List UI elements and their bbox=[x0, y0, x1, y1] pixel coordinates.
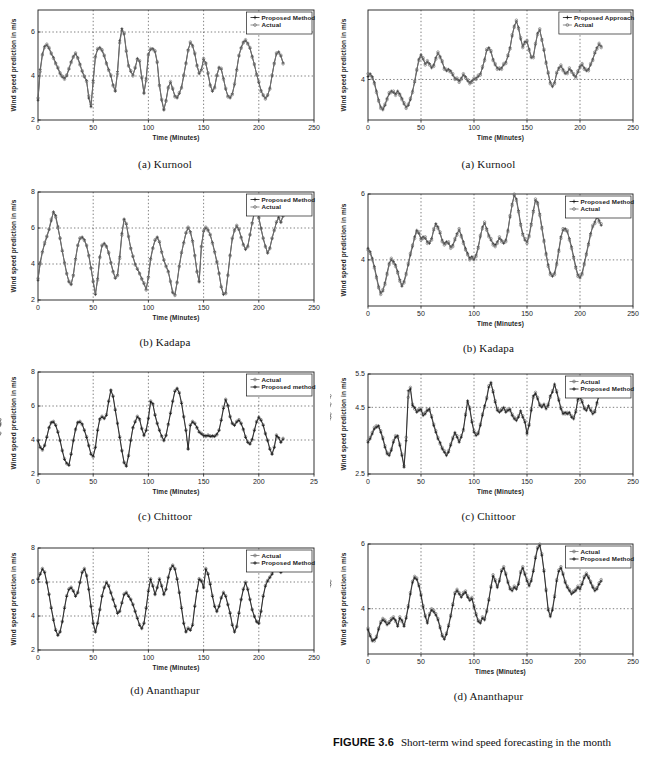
ytick-label: 4 bbox=[31, 612, 35, 619]
y-axis-title: Wind speed prediction in m/s bbox=[340, 18, 348, 111]
xtick-label: 100 bbox=[468, 310, 480, 317]
chart-block-right-c: 0501001502002502.54.55.5Time (Minutes)Wi… bbox=[330, 364, 647, 522]
x-axis-title: Time (Minutes) bbox=[477, 488, 524, 496]
xtick-label: 0 bbox=[36, 478, 40, 485]
plot-left-c-chittoor: 050100150200252468Time (Minutes)Wind spe… bbox=[0, 362, 330, 504]
legend-label: Proposed Method bbox=[262, 559, 316, 566]
subcaption-left-a: (a) Kurnool bbox=[0, 158, 330, 170]
xtick-label: 150 bbox=[198, 304, 210, 311]
subcaption-left-d: (d) Ananthapur bbox=[0, 684, 330, 696]
left-column: 050100150200250246Time (Minutes)Wind spe… bbox=[0, 0, 330, 700]
subcaption-right-d: (d) Ananthapur bbox=[330, 690, 647, 702]
xtick-label: 100 bbox=[143, 478, 155, 485]
y-axis-title: Wind speed prediction in m/s bbox=[10, 199, 18, 292]
xtick-label: 0 bbox=[366, 478, 370, 485]
legend-label: Actual bbox=[262, 203, 282, 210]
chart-block-left-a: 050100150200250246Time (Minutes)Wind spe… bbox=[0, 0, 330, 170]
legend-label: Proposed Method bbox=[262, 14, 316, 21]
xtick-label: 200 bbox=[574, 124, 586, 131]
xtick-label: 100 bbox=[143, 304, 155, 311]
ytick-label: 4 bbox=[31, 72, 35, 79]
series-markers bbox=[330, 383, 602, 467]
legend-label: Proposed method bbox=[262, 383, 316, 390]
y-axis-title: Wind speed prediction in m/s bbox=[10, 376, 18, 469]
legend-label: Actual bbox=[262, 376, 282, 383]
x-axis-title: Time (Minutes) bbox=[152, 488, 199, 496]
x-axis-title: Time (Minutes) bbox=[152, 314, 199, 322]
x-axis-title: Time (Minutes) bbox=[477, 134, 524, 142]
xtick-label: 100 bbox=[143, 124, 155, 131]
ytick-label: 8 bbox=[31, 188, 35, 195]
legend-label: Actual bbox=[574, 21, 594, 28]
legend-label: Actual bbox=[581, 205, 601, 212]
xtick-label: 150 bbox=[521, 658, 533, 665]
chart-svg: 0501001502002502468Time (Minutes)Wind sp… bbox=[0, 538, 330, 680]
legend-label: Actual bbox=[581, 378, 601, 385]
legend-label: Proposed Method bbox=[581, 555, 635, 562]
xtick-label: 100 bbox=[468, 124, 480, 131]
x-axis-title: Time (Minutes) bbox=[152, 134, 199, 142]
ytick-label: 8 bbox=[31, 544, 35, 551]
chart-block-right-b: 05010015020025046Time (Minutes)Wind spee… bbox=[330, 184, 647, 354]
x-axis-title: Time (Minutes) bbox=[152, 664, 199, 672]
chart-block-left-c: 050100150200252468Time (Minutes)Wind spe… bbox=[0, 362, 330, 522]
ytick-label: 6 bbox=[31, 224, 35, 231]
legend: ActualProposed Method bbox=[247, 550, 316, 572]
x-axis-title: Time (Minutes) bbox=[477, 320, 524, 328]
chart-svg: 0501001502002504Time (Minutes)Wind speed… bbox=[330, 0, 647, 150]
series-line bbox=[38, 566, 283, 636]
ytick-label: 2 bbox=[31, 296, 35, 303]
xtick-label: 50 bbox=[417, 124, 425, 131]
ytick-label: 5.5 bbox=[355, 370, 365, 377]
plot-left-a-kurnool: 050100150200250246Time (Minutes)Wind spe… bbox=[0, 0, 330, 150]
xtick-label: 25 bbox=[310, 478, 318, 485]
ytick-label: 2 bbox=[31, 646, 35, 653]
y-axis-title: Wind speed prediction in m/s bbox=[340, 552, 348, 645]
xtick-label: 150 bbox=[198, 478, 210, 485]
xtick-label: 150 bbox=[521, 310, 533, 317]
legend-label: Actual bbox=[262, 552, 282, 559]
legend: Proposed MethodActual bbox=[247, 194, 316, 216]
figure-page: 050100150200250246Time (Minutes)Wind spe… bbox=[0, 0, 647, 759]
subcaption-left-b: (b) Kadapa bbox=[0, 336, 330, 348]
legend: ActualProposed Method bbox=[566, 546, 635, 568]
legend-label: Proposed Approach bbox=[574, 14, 635, 21]
legend-label: Actual bbox=[262, 21, 282, 28]
ytick-label: 4 bbox=[361, 605, 365, 612]
ytick-label: 2 bbox=[31, 116, 35, 123]
xtick-label: 250 bbox=[308, 654, 320, 661]
legend-label: Proposed Method bbox=[581, 198, 635, 205]
ytick-label: 4.5 bbox=[355, 404, 365, 411]
ytick-label: 6 bbox=[31, 402, 35, 409]
xtick-label: 150 bbox=[521, 124, 533, 131]
xtick-label: 200 bbox=[574, 658, 586, 665]
y-axis-title: Wind speed prediction in m/s bbox=[10, 18, 18, 111]
chart-svg: 0501001502002502468Time (Minutes)Wind sp… bbox=[0, 182, 330, 330]
xtick-label: 50 bbox=[89, 478, 97, 485]
ytick-label: 4 bbox=[361, 76, 365, 83]
plot-right-d-ananthapur: 05010015020025046Times (Minutes)Wind spe… bbox=[330, 534, 647, 684]
xtick-label: 200 bbox=[574, 478, 586, 485]
xtick-label: 50 bbox=[417, 658, 425, 665]
right-column: 0501001502002504Time (Minutes)Wind speed… bbox=[330, 0, 647, 712]
chart-svg: 05010015020025046Times (Minutes)Wind spe… bbox=[330, 534, 647, 684]
xtick-label: 50 bbox=[89, 654, 97, 661]
y-axis-title: Wind speed prediction in m/s bbox=[340, 203, 348, 296]
xtick-label: 200 bbox=[253, 124, 265, 131]
xtick-label: 0 bbox=[366, 658, 370, 665]
series-markers bbox=[37, 564, 285, 637]
legend-label: Actual bbox=[581, 548, 601, 555]
ytick-label: 2.5 bbox=[355, 470, 365, 477]
xtick-label: 50 bbox=[417, 310, 425, 317]
plot-left-b-kadapa: 0501001502002502468Time (Minutes)Wind sp… bbox=[0, 182, 330, 330]
xtick-label: 250 bbox=[308, 124, 320, 131]
series-markers bbox=[330, 381, 603, 469]
plot-right-c-chittoor: 0501001502002502.54.55.5Time (Minutes)Wi… bbox=[330, 364, 647, 504]
legend: Proposed MethodActual bbox=[566, 196, 635, 218]
figure-caption: FIGURE 3.6Short-term wind speed forecast… bbox=[333, 736, 647, 750]
subcaption-left-c: (c) Chittoor bbox=[0, 510, 330, 522]
legend-label: Proposed Method bbox=[581, 385, 635, 392]
plot-left-d-ananthapur: 0501001502002502468Time (Minutes)Wind sp… bbox=[0, 538, 330, 680]
legend: Proposed MethodActual bbox=[247, 12, 316, 34]
legend: Proposed ApproachActual bbox=[559, 12, 635, 34]
